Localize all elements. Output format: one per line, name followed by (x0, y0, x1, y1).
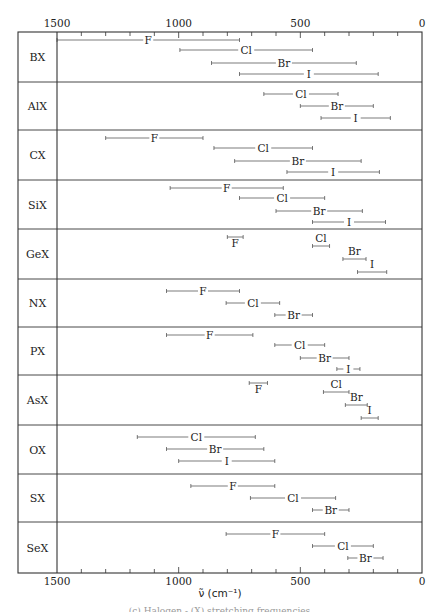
range-bar-cl: Cl (250, 492, 335, 504)
range-bar-i: I (361, 404, 378, 420)
bar-label: I (370, 258, 374, 270)
range-bar-br: Br (235, 155, 362, 167)
range-bar-br: Br (300, 352, 349, 364)
top-tick-label: 500 (290, 17, 310, 29)
row-nx: NXFClBr (29, 285, 313, 321)
row-label: PX (30, 345, 45, 358)
range-bar-f: F (167, 285, 240, 297)
range-bar-f: F (170, 182, 283, 194)
range-bar-cl: Cl (180, 44, 313, 56)
range-bar-i: I (358, 258, 387, 274)
chart-frame (18, 32, 422, 573)
bar-label: Br (350, 391, 364, 403)
range-bar-i: I (337, 363, 360, 375)
range-bar-br: Br (345, 391, 367, 407)
row-label: CX (29, 149, 45, 162)
chart-rows: BXFClBrIAlXClBrICXFClBrISiXFClBrIGeXFClB… (26, 34, 391, 564)
bar-label: Cl (287, 492, 299, 504)
bottom-tick-label: 1500 (44, 575, 71, 587)
row-label: GeX (26, 248, 49, 261)
row-gex: GeXFClBrI (26, 232, 387, 274)
row-label: BX (30, 51, 46, 64)
range-bar-f: F (57, 34, 240, 46)
row-label: AsX (26, 394, 49, 407)
bar-label: F (223, 182, 230, 194)
bar-label: Cl (337, 540, 349, 552)
range-bar-f: F (227, 235, 243, 249)
range-bar-br: Br (167, 443, 264, 455)
range-bar-br: Br (275, 309, 313, 321)
bar-label: Cl (258, 142, 270, 154)
range-bar-i: I (179, 455, 275, 467)
range-bar-f: F (249, 381, 267, 395)
bar-label: Cl (331, 378, 343, 390)
x-axis-title: ν̃ (cm⁻¹) (198, 587, 241, 599)
bar-label: Cl (276, 192, 288, 204)
bar-label: Br (292, 155, 306, 167)
bar-label: Br (313, 205, 327, 217)
row-sx: SXFClBr (30, 480, 349, 516)
range-bar-i: I (313, 216, 386, 228)
row-bx: BXFClBrI (30, 34, 379, 80)
bar-label: F (145, 34, 152, 46)
row-label: SiX (28, 199, 47, 212)
bar-label: Cl (295, 88, 307, 100)
bar-label: I (347, 216, 351, 228)
range-bar-f: F (191, 480, 275, 492)
range-bar-br: Br (348, 552, 383, 564)
bottom-tick-label: 500 (290, 575, 310, 587)
range-bar-cl: Cl (264, 88, 338, 100)
row-label: OX (29, 444, 46, 457)
bar-label: F (232, 237, 239, 249)
bar-label: F (151, 132, 158, 144)
bottom-tick-label: 0 (419, 575, 426, 587)
bar-label: I (368, 404, 372, 416)
bar-label: Br (278, 57, 292, 69)
bar-label: I (354, 112, 358, 124)
bar-label: Br (348, 245, 362, 257)
row-label: SX (30, 492, 46, 505)
row-ox: OXClBrI (29, 431, 275, 467)
bar-label: F (255, 383, 262, 395)
top-tick-label: 1500 (44, 17, 71, 29)
range-bar-f: F (167, 329, 253, 341)
bar-label: Br (287, 309, 301, 321)
range-bar-br: Br (343, 245, 366, 261)
row-sex: SeXFClBr (27, 528, 384, 564)
plot-border (18, 32, 422, 573)
bar-label: Br (330, 100, 344, 112)
range-bar-br: Br (212, 57, 357, 69)
range-bar-br: Br (313, 504, 350, 516)
range-bar-cl: Cl (214, 142, 313, 154)
range-bar-cl: Cl (275, 339, 325, 351)
range-bar-cl: Cl (137, 431, 255, 443)
row-alx: AlXClBrI (27, 88, 391, 124)
row-label: NX (29, 297, 47, 310)
bar-label: Br (324, 504, 338, 516)
range-bar-cl: Cl (313, 232, 330, 248)
bar-label: Cl (240, 44, 252, 56)
bar-label: I (225, 455, 229, 467)
bar-label: F (229, 480, 236, 492)
bar-label: I (331, 166, 335, 178)
bar-label: Cl (191, 431, 203, 443)
range-bar-f: F (106, 132, 203, 144)
range-bar-cl: Cl (226, 297, 280, 309)
halogen-stretching-frequency-chart: 150015001000100050050000 BXFClBrIAlXClBr… (0, 0, 439, 605)
top-tick-label: 0 (419, 17, 426, 29)
bar-label: F (272, 528, 279, 540)
bottom-tick-label: 1000 (165, 575, 192, 587)
bar-label: Cl (247, 297, 259, 309)
range-bar-f: F (226, 528, 325, 540)
bar-label: Cl (315, 232, 327, 244)
top-tick-label: 1000 (165, 17, 192, 29)
row-label: SeX (27, 542, 49, 555)
range-bar-br: Br (300, 100, 373, 112)
range-bar-i: I (240, 68, 379, 80)
bar-label: Br (209, 443, 223, 455)
row-six: SiXFClBrI (28, 182, 385, 228)
row-cx: CXFClBrI (29, 132, 379, 178)
bar-label: I (307, 68, 311, 80)
range-bar-i: I (321, 112, 390, 124)
row-asx: AsXFClBrI (26, 378, 378, 420)
